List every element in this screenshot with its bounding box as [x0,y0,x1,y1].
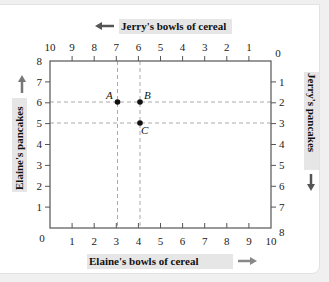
svg-text:7: 7 [114,41,120,53]
svg-text:8: 8 [91,41,97,53]
svg-text:9: 9 [246,235,252,247]
svg-text:1: 1 [279,76,285,88]
svg-text:4: 4 [136,235,142,247]
svg-text:3: 3 [37,159,43,171]
point-b-label: B [144,89,151,101]
top-tick-labels: 10 9 8 7 6 5 4 3 2 1 0 [45,41,282,59]
point-c-label: C [141,124,149,136]
svg-text:4: 4 [180,41,186,53]
point-a-label: A [105,89,113,101]
svg-text:2: 2 [224,41,230,53]
arrow-left-icon [95,22,114,30]
svg-text:1: 1 [246,41,252,53]
point-b [137,99,143,105]
svg-text:2: 2 [37,180,43,192]
top-axis-title: Jerry's bowls of cereal [121,20,226,32]
guide-lines [50,61,271,228]
svg-text:7: 7 [37,76,43,88]
svg-text:5: 5 [158,235,164,247]
point-a [115,99,121,105]
svg-text:9: 9 [69,41,75,53]
bottom-ticks [72,223,249,228]
svg-text:3: 3 [279,117,285,129]
svg-text:4: 4 [279,138,285,150]
edgeworth-box-chart: Jerry's bowls of cereal Elaine's bowls o… [0,0,329,282]
left-axis-title: Elaine's pancakes [13,106,25,190]
svg-text:7: 7 [202,235,208,247]
svg-text:4: 4 [37,138,43,150]
svg-text:10: 10 [266,235,278,247]
svg-text:5: 5 [158,41,164,53]
left-tick-labels: 1 2 3 4 5 6 7 8 [37,55,43,213]
svg-text:2: 2 [279,96,285,108]
left-ticks [45,82,50,207]
svg-text:7: 7 [279,201,285,213]
svg-text:6: 6 [180,235,186,247]
svg-text:6: 6 [136,41,142,53]
svg-text:3: 3 [114,235,120,247]
right-axis-title: Jerry's pancakes [306,73,318,153]
svg-text:10: 10 [45,41,57,53]
svg-text:1: 1 [37,201,43,213]
plot-box [50,61,271,228]
svg-text:5: 5 [279,159,285,171]
arrow-down-icon [307,174,315,191]
svg-text:0: 0 [39,232,45,244]
svg-text:6: 6 [279,180,285,192]
arrow-up-icon [18,75,26,93]
svg-text:0: 0 [275,47,281,59]
right-ticks [271,82,276,207]
bottom-axis-title: Elaine's bowls of cereal [89,255,198,267]
svg-text:6: 6 [37,96,43,108]
svg-text:1: 1 [69,235,75,247]
svg-text:8: 8 [37,55,43,67]
svg-text:2: 2 [91,235,97,247]
right-tick-labels: 1 2 3 4 5 6 7 8 [279,76,285,238]
svg-text:3: 3 [202,41,208,53]
svg-text:8: 8 [224,235,230,247]
svg-text:5: 5 [37,117,43,129]
arrow-right-icon [238,257,257,265]
svg-text:8: 8 [279,226,285,238]
top-ticks [72,56,249,61]
bottom-tick-labels: 0 1 2 3 4 5 6 7 8 9 10 [39,232,277,247]
